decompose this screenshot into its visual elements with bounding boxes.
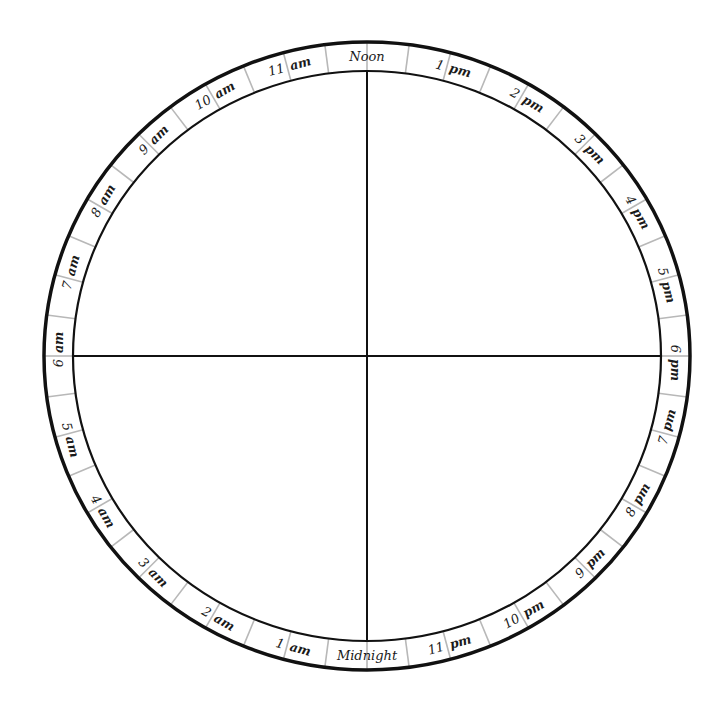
hour-number: 6 <box>51 359 66 367</box>
noon-label: Noon <box>348 49 384 64</box>
hour-number: 6 <box>668 345 683 353</box>
background <box>0 0 727 715</box>
pm-suffix: pm <box>668 359 683 381</box>
midnight-label: Midnight <box>336 648 398 663</box>
hour-label: Noon <box>348 49 384 64</box>
hour-label: 6am <box>51 332 66 368</box>
24-hour-clock-diagram: Noon1pm2pm3pm4pm5pm6pm7pm8pm9pm10pm11pmM… <box>0 0 727 715</box>
am-suffix: am <box>51 332 66 353</box>
hour-label: 6pm <box>668 345 683 381</box>
hour-label: Midnight <box>336 648 398 663</box>
